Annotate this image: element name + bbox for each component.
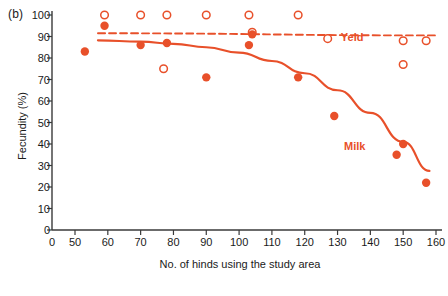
x-tick-label: 160 — [427, 236, 445, 248]
x-axis-tick-labels: 05060708090100110120130140150160 — [0, 0, 448, 296]
x-tick-label: 80 — [167, 236, 179, 248]
series-annotation-yeld: Yeld — [341, 31, 364, 43]
x-tick-label: 0 — [49, 236, 55, 248]
y-axis-title: Fecundity (%) — [16, 56, 28, 196]
x-tick-label: 60 — [102, 236, 114, 248]
x-tick-label: 70 — [135, 236, 147, 248]
x-tick-label: 150 — [394, 236, 412, 248]
x-tick-label: 90 — [200, 236, 212, 248]
x-axis-title: No. of hinds using the study area — [52, 258, 428, 270]
series-annotation-milk: Milk — [344, 140, 365, 152]
x-tick-label: 130 — [328, 236, 346, 248]
x-tick-label: 140 — [361, 236, 379, 248]
x-tick-label: 110 — [263, 236, 281, 248]
x-tick-label: 50 — [69, 236, 81, 248]
x-tick-label: 120 — [296, 236, 314, 248]
x-tick-label: 100 — [230, 236, 248, 248]
figure-panel-b: (b) 0102030405060708090100 0506070809010… — [0, 0, 448, 296]
